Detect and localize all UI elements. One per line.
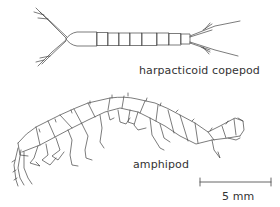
copepod-drawing: [34, 8, 240, 66]
amphipod-label: amphipod: [133, 158, 189, 171]
amphipod-drawing: [12, 93, 244, 186]
copepod-label: harpacticoid copepod: [139, 64, 260, 77]
scale-bar-line: [200, 178, 271, 186]
scale-bar-label: 5 mm: [222, 190, 254, 203]
illustration: [0, 0, 280, 207]
